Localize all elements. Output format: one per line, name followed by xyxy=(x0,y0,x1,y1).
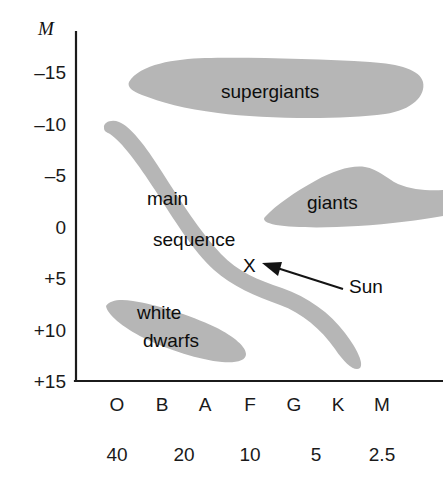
hr-diagram-figure: M –15 –10 –5 0 +5 +10 +15 O B A F G K M … xyxy=(0,0,443,484)
x-secondary-tick-label-5: 5 xyxy=(291,444,341,466)
sun-marker-x: X xyxy=(243,255,256,277)
region-label-giants: giants xyxy=(307,192,358,214)
x-secondary-tick-label-20: 20 xyxy=(159,444,209,466)
y-tick-label-plus10: +10 xyxy=(8,320,66,342)
region-label-white-dwarfs-line1: white xyxy=(137,302,181,324)
y-tick-label-minus5: –5 xyxy=(8,165,66,187)
x-tick-label-m: M xyxy=(362,394,402,416)
x-secondary-tick-label-10: 10 xyxy=(225,444,275,466)
x-tick-label-a: A xyxy=(185,394,225,416)
y-tick-label-minus15: –15 xyxy=(8,62,66,84)
x-secondary-tick-label-40: 40 xyxy=(92,444,142,466)
x-tick-label-k: K xyxy=(318,394,358,416)
region-label-main-sequence-line2: sequence xyxy=(153,229,235,251)
region-label-white-dwarfs-line2: dwarfs xyxy=(143,330,199,352)
y-tick-label-plus15: +15 xyxy=(8,371,66,393)
region-label-main-sequence-line1: main xyxy=(147,188,188,210)
x-tick-label-f: F xyxy=(230,394,270,416)
y-tick-label-plus5: +5 xyxy=(8,268,66,290)
y-tick-label-minus10: –10 xyxy=(8,114,66,136)
x-tick-label-o: O xyxy=(97,394,137,416)
sun-leader-line xyxy=(274,267,343,289)
region-label-supergiants: supergiants xyxy=(221,81,319,103)
y-tick-label-zero: 0 xyxy=(8,217,66,239)
sun-callout-label: Sun xyxy=(349,276,383,298)
x-tick-label-g: G xyxy=(274,394,314,416)
x-secondary-tick-label-2-5: 2.5 xyxy=(357,444,407,466)
sun-arrow-head xyxy=(262,262,282,276)
x-tick-label-b: B xyxy=(142,394,182,416)
y-axis-title: M xyxy=(38,18,54,40)
